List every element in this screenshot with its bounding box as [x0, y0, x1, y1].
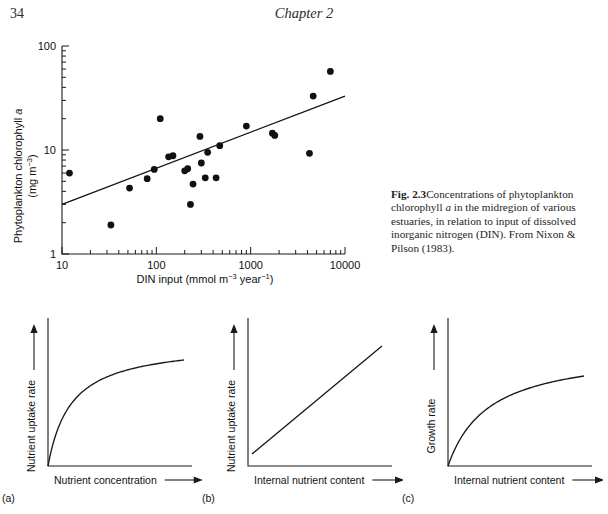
x-title-sup1: −3 — [228, 272, 237, 281]
scatter-point — [151, 166, 158, 173]
scatter-point — [306, 150, 313, 157]
x-tick-label: 10 — [56, 259, 68, 271]
panel-a-x-axis-label: Nutrient concentration — [54, 474, 157, 486]
y-tick-label: 100 — [38, 40, 56, 52]
scatter-point — [157, 115, 164, 122]
y-units-text: (mg m — [26, 167, 38, 198]
panel-c-y-axis-label: Growth rate — [425, 398, 437, 453]
scatter-point — [187, 201, 194, 208]
y-tick-label: 1 — [50, 248, 56, 260]
panel-a-id-label: (a) — [2, 492, 15, 504]
figure-2-3-scatter-plot: 10100100010000110100 Phytoplankton chlor… — [0, 26, 380, 288]
scatter-point — [213, 174, 220, 181]
scatter-point — [204, 149, 211, 156]
panel-a-y-axis-label: Nutrient uptake rate — [25, 380, 37, 472]
scatter-point — [190, 181, 197, 188]
scatter-point — [198, 160, 205, 167]
panel-a-axes: Nutrient uptake rateNutrient concentrati… — [2, 318, 203, 504]
x-tick-label: 100 — [147, 259, 165, 271]
panel-c-axes: Growth rateInternal nutrient content(c) — [402, 318, 603, 504]
x-title-close: ) — [270, 273, 274, 285]
scatter-point — [144, 175, 151, 182]
panel-c: Growth rateInternal nutrient content(c) — [400, 306, 603, 514]
cut-off-next-caption — [2, 505, 302, 514]
scatter-y-axis-title: Phytoplankton chlorophyll a — [12, 109, 24, 244]
scatter-regression-line — [62, 96, 345, 204]
scatter-x-axis-title: DIN input (mmol m−3 year−1) — [137, 272, 274, 285]
scatter-point — [184, 165, 191, 172]
scatter-point — [66, 170, 73, 177]
x-title-sup2: −1 — [261, 272, 270, 281]
scatter-point — [271, 132, 278, 139]
x-title-main: DIN input (mmol m — [137, 273, 229, 285]
scatter-point — [243, 123, 250, 130]
running-head: Chapter 2 — [0, 5, 608, 22]
panel-b-axes: Nutrient uptake rateInternal nutrient co… — [202, 318, 403, 504]
y-title-text: Phytoplankton chlorophyll — [12, 115, 24, 243]
svg-text:Phytoplankton chlorophyll a: Phytoplankton chlorophyll a — [12, 109, 24, 244]
y-tick-label: 10 — [44, 144, 56, 156]
x-tick-label: 10000 — [330, 259, 361, 271]
scatter-data-points — [66, 68, 334, 228]
caption-label: Fig. 2.3 — [391, 188, 426, 200]
page-canvas: 34 Chapter 2 10100100010000110100 Phytop… — [0, 0, 608, 514]
panel-c-id-label: (c) — [402, 492, 414, 504]
panel-b: Nutrient uptake rateInternal nutrient co… — [200, 306, 403, 514]
scatter-point — [327, 68, 334, 75]
y-title-italic-a: a — [12, 109, 24, 115]
scatter-point — [170, 152, 177, 159]
x-title-mid: year — [237, 273, 262, 285]
scatter-point — [108, 222, 115, 229]
x-tick-label: 1000 — [238, 259, 262, 271]
panel-b-y-axis-label: Nutrient uptake rate — [225, 380, 237, 472]
panel-b-id-label: (b) — [202, 492, 215, 504]
scatter-point — [216, 142, 223, 149]
y-units-sup: −3 — [25, 158, 34, 167]
panel-a-curve — [48, 360, 184, 466]
panel-c-x-axis-label: Internal nutrient content — [454, 474, 564, 486]
scatter-point — [202, 174, 209, 181]
svg-text:(mg m−3): (mg m−3) — [25, 154, 38, 197]
panel-a: Nutrient uptake rateNutrient concentrati… — [0, 306, 203, 514]
scatter-point — [126, 185, 133, 192]
y-units-close: ) — [26, 154, 38, 158]
panel-b-curve — [252, 346, 382, 454]
figure-caption: Fig. 2.3Concentrations of phytoplankton … — [391, 188, 599, 255]
scatter-point — [310, 93, 317, 100]
scatter-y-axis-units: (mg m−3) — [25, 154, 38, 197]
scatter-point — [197, 133, 204, 140]
panel-c-curve — [448, 376, 584, 466]
panel-b-x-axis-label: Internal nutrient content — [254, 474, 364, 486]
